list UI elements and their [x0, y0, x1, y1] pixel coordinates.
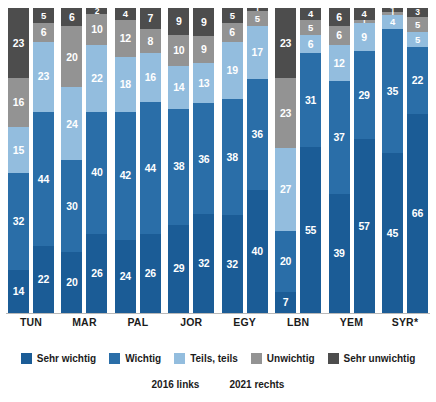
bar-segment: 12 — [115, 20, 136, 57]
bar-segment: 14 — [8, 270, 29, 313]
legend-item-sehr-unwichtig[interactable]: Sehr unwichtig — [328, 353, 416, 364]
bar-segment: 45 — [382, 153, 403, 313]
category-label-mar: MAR — [61, 316, 107, 328]
bar-group-egy: 5619383215173640 — [222, 8, 268, 313]
legend-label: Sehr unwichtig — [344, 353, 416, 364]
bar-group-syr: 11435453552266 — [382, 8, 428, 313]
bar-segment: 24 — [61, 87, 82, 160]
bar-segment: 32 — [222, 215, 243, 313]
bar-segment: 5 — [33, 8, 54, 23]
legend-item-sehr-wichtig[interactable]: Sehr wichtig — [21, 353, 96, 364]
category-label-lbn: LBN — [275, 316, 321, 328]
x-axis-category-labels: TUNMARPALJOREGYLBNYEMSYR* — [0, 316, 436, 328]
bar-segment: 16 — [140, 53, 161, 101]
bar-segment: 36 — [247, 79, 268, 190]
series-order-note: 2016 links 2021 rechts — [0, 379, 436, 390]
bar-segment: 23 — [33, 42, 54, 112]
legend-swatch-icon — [328, 353, 339, 364]
category-label-pal: PAL — [115, 316, 161, 328]
bar-segment: 32 — [8, 173, 29, 271]
bar-group-lbn: 2323272074563155 — [275, 8, 321, 313]
bar-mar-2016[interactable]: 620243020 — [61, 8, 82, 313]
bar-pal-2016[interactable]: 412184224 — [115, 8, 136, 313]
legend-item-teils-teils[interactable]: Teils, teils — [174, 353, 238, 364]
bar-segment: 27 — [275, 148, 296, 230]
bar-lbn-2021[interactable]: 4563155 — [300, 8, 321, 313]
bar-segment: 20 — [275, 231, 296, 292]
bar-segment: 31 — [300, 53, 321, 147]
bar-segment: 3 — [407, 8, 428, 17]
plot-area: 2316153214562344226202430202102240264121… — [0, 8, 436, 313]
bar-segment: 10 — [86, 14, 107, 45]
bar-segment: 19 — [222, 42, 243, 100]
bar-segment: 5 — [300, 20, 321, 35]
bar-egy-2016[interactable]: 56193832 — [222, 8, 243, 313]
bar-segment: 5 — [222, 8, 243, 23]
bar-segment: 44 — [140, 102, 161, 235]
bar-segment: 38 — [168, 109, 189, 225]
bar-segment: 23 — [275, 78, 296, 148]
note-2016-left: 2016 links — [152, 379, 200, 390]
bar-segment: 55 — [300, 147, 321, 313]
bar-yem-2021[interactable]: 4192957 — [354, 8, 375, 313]
bar-segment: 4 — [382, 15, 403, 29]
bar-segment: 4 — [354, 8, 375, 20]
note-2021-right: 2021 rechts — [229, 379, 284, 390]
bar-segment: 10 — [168, 35, 189, 66]
bar-segment: 35 — [382, 29, 403, 153]
bar-mar-2021[interactable]: 210224026 — [86, 8, 107, 313]
bar-segment: 13 — [193, 63, 214, 103]
bar-egy-2021[interactable]: 15173640 — [247, 8, 268, 313]
legend-item-wichtig[interactable]: Wichtig — [109, 353, 161, 364]
bar-segment: 26 — [140, 234, 161, 313]
bar-segment: 20 — [61, 252, 82, 313]
bar-syr-2021[interactable]: 3552266 — [407, 8, 428, 313]
bar-jor-2016[interactable]: 910143829 — [168, 8, 189, 313]
legend-swatch-icon — [109, 353, 120, 364]
bar-segment: 17 — [247, 26, 268, 78]
bar-segment: 44 — [33, 112, 54, 246]
category-label-tun: TUN — [8, 316, 54, 328]
bar-segment: 16 — [8, 78, 29, 127]
bar-segment: 7 — [275, 292, 296, 313]
bar-segment: 36 — [193, 103, 214, 214]
bar-segment: 40 — [86, 112, 107, 234]
bar-segment: 6 — [300, 35, 321, 53]
bar-segment: 6 — [33, 23, 54, 41]
legend-label: Wichtig — [125, 353, 161, 364]
bar-segment: 23 — [8, 8, 29, 78]
bar-segment: 22 — [33, 246, 54, 313]
bar-segment: 6 — [61, 8, 82, 26]
bar-segment: 22 — [407, 47, 428, 113]
bar-segment: 29 — [354, 51, 375, 139]
bar-segment: 9 — [354, 23, 375, 50]
x-axis-line — [6, 313, 430, 314]
category-label-egy: EGY — [222, 316, 268, 328]
bar-segment: 9 — [168, 8, 189, 35]
bar-tun-2016[interactable]: 2316153214 — [8, 8, 29, 313]
bar-segment: 9 — [193, 8, 214, 36]
bar-segment: 40 — [247, 190, 268, 313]
legend-swatch-icon — [21, 353, 32, 364]
bar-segment: 22 — [86, 45, 107, 112]
category-label-syr: SYR* — [382, 316, 428, 328]
bar-group-jor: 91014382999133632 — [168, 8, 214, 313]
legend-item-unwichtig[interactable]: Unwichtig — [251, 353, 315, 364]
category-label-jor: JOR — [168, 316, 214, 328]
bar-lbn-2016[interactable]: 232327207 — [275, 8, 296, 313]
bar-jor-2021[interactable]: 99133632 — [193, 8, 214, 313]
bar-segment: 32 — [193, 214, 214, 313]
bar-segment: 5 — [407, 17, 428, 32]
bar-segment: 37 — [329, 81, 350, 194]
bar-segment: 15 — [8, 127, 29, 173]
bar-syr-2016[interactable]: 1143545 — [382, 8, 403, 313]
bar-tun-2021[interactable]: 56234422 — [33, 8, 54, 313]
bar-segment: 6 — [222, 23, 243, 41]
bar-yem-2016[interactable]: 66123739 — [329, 8, 350, 313]
legend-swatch-icon — [251, 353, 262, 364]
bar-segment: 6 — [329, 8, 350, 26]
bar-segment: 38 — [222, 99, 243, 215]
bar-pal-2021[interactable]: 78164426 — [140, 8, 161, 313]
bar-segment: 57 — [354, 139, 375, 313]
bar-segment: 29 — [168, 225, 189, 313]
